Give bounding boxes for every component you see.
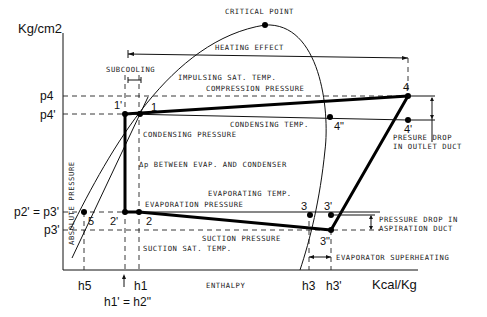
point-1p: 1' (114, 99, 122, 111)
critical-point-marker (262, 22, 268, 28)
y-axis-unit: Kg/cm2 (18, 21, 62, 36)
point-2: 2 (146, 215, 152, 227)
point-1: 1 (151, 101, 157, 113)
outlet-drop-label-2: IN OUTLET DUCT (393, 142, 462, 151)
point-3: 3 (301, 200, 307, 212)
evaporating-temp-label: EVAPORATING TEMP. (208, 189, 292, 198)
liquid-line (72, 97, 148, 258)
point-5: 5 (88, 215, 94, 227)
p4-tick: p4 (40, 89, 54, 103)
h1-tick: h1 (134, 279, 148, 293)
impulsing-sat-temp-label: IMPULSING SAT. TEMP. (178, 73, 277, 82)
condensing-pressure-label: CONDENSING PRESSURE (143, 130, 237, 139)
suction-sat-temp-label: SUCTION SAT. TEMP. (143, 244, 232, 253)
heating-effect-label: HEATING EFFECT (215, 43, 284, 52)
h1p-eq-h2pp-tick: h1' = h2" (104, 295, 151, 309)
x-axis-unit: Kcal/Kg (372, 277, 417, 292)
point-3p: 3' (324, 200, 332, 212)
p3p-tick: p3' (44, 223, 60, 237)
delta-p-label: Δp BETWEEN EVAP. AND CONDENSER (139, 160, 287, 169)
p4p-tick: p4' (40, 108, 56, 122)
h5-tick: h5 (78, 279, 92, 293)
x-axis-label: ENTHALPY (206, 281, 245, 290)
subcooling-label: SUBCOOLING (106, 65, 155, 74)
evaporator-superheating-label: EVAPORATOR SUPERHEATING (336, 253, 449, 262)
outlet-drop-label-1: PRESURE DROP (393, 133, 452, 142)
aspiration-drop-label-1: PRESSURE DROP IN (379, 215, 458, 224)
aspiration-drop-label-2: ASPIRATION DUCT (379, 224, 453, 233)
condensing-temp-label: CONDENSING TEMP. (230, 120, 309, 129)
p2p-eq-p3-tick: p2' = p3' (14, 205, 59, 219)
saturation-dome (70, 25, 326, 270)
compression-pressure-label: COMPRESSION PRESSURE (206, 84, 305, 93)
point-3pp: 3" (320, 235, 330, 247)
h3-tick: h3 (302, 279, 316, 293)
critical-point-label: CRITICAL POINT (225, 7, 294, 16)
heating-effect-line (128, 54, 408, 58)
evaporation-pressure-label: EVAPORATION PRESSURE (145, 200, 244, 209)
suction-pressure-label: SUCTION PRESSURE (202, 234, 281, 243)
h3p-tick: h3' (326, 279, 342, 293)
point-4: 4 (403, 81, 409, 93)
point-2p: 2' (110, 215, 118, 227)
y-axis-label: ABSOLUTE PRESSURE (67, 161, 76, 245)
pressure-enthalpy-diagram: Kg/cm2 ABSOLUTE PRESSURE CRITICAL POINT … (0, 0, 487, 317)
point-4pp: 4" (334, 120, 344, 132)
